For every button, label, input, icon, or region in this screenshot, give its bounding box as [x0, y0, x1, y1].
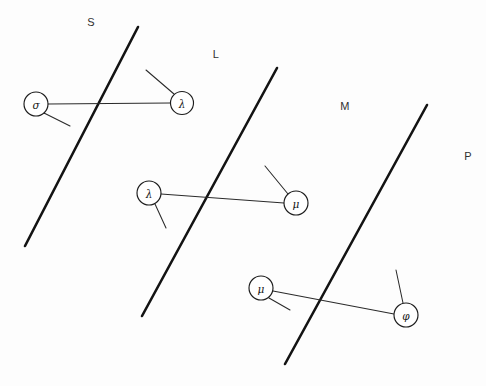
- diagram-canvas: σ λ λ μ μ φ S L M P: [0, 0, 486, 386]
- region-label-s: S: [87, 16, 95, 28]
- node-label-sigma: σ: [32, 99, 40, 111]
- link-line: [48, 103, 170, 104]
- link-line: [273, 291, 394, 314]
- link-line: [161, 194, 284, 203]
- region-label-l: L: [213, 48, 219, 60]
- node-label-lambda: λ: [178, 98, 186, 110]
- group-mu-phi: μ φ: [249, 270, 418, 327]
- node-label-mu: μ: [258, 283, 265, 295]
- left-node-stub: [44, 113, 70, 126]
- node-label-phi: φ: [402, 310, 410, 322]
- barrier-line-s: [25, 27, 138, 246]
- region-label-p: P: [464, 150, 472, 162]
- left-node-stub: [155, 204, 166, 228]
- barrier-lines: [25, 27, 427, 364]
- region-label-m: M: [340, 100, 349, 112]
- right-node-stub: [265, 166, 288, 194]
- left-node-stub: [269, 298, 290, 310]
- diagram-root: σ λ λ μ μ φ S L M P: [0, 0, 486, 386]
- group-lambda-mu: λ μ: [137, 166, 308, 228]
- node-label-lambda: λ: [145, 188, 153, 200]
- region-labels: S L M P: [87, 16, 472, 162]
- group-sigma-lambda: σ λ: [24, 70, 194, 126]
- node-label-mu: μ: [293, 198, 300, 210]
- right-node-stub: [146, 70, 174, 94]
- right-node-stub: [396, 270, 403, 303]
